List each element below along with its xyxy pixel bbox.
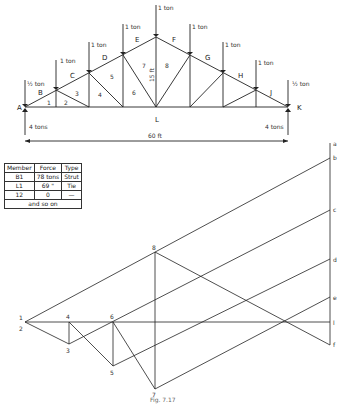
table-row: B1 78 tons Strut xyxy=(5,173,82,182)
svg-text:A: A xyxy=(17,104,22,112)
svg-text:1: 1 xyxy=(47,99,51,106)
svg-text:a: a xyxy=(333,140,337,147)
svg-text:4: 4 xyxy=(66,313,70,320)
svg-text:d: d xyxy=(333,256,337,263)
svg-text:15 ft: 15 ft xyxy=(148,67,155,82)
member-force-table: Member Force Type B1 78 tons Strut L1 69… xyxy=(4,163,82,209)
svg-text:5: 5 xyxy=(110,73,114,80)
table-row: 12 0 — xyxy=(5,191,82,200)
load-label: 1 ton xyxy=(158,4,174,11)
col-type: Type xyxy=(62,164,82,173)
svg-text:l: l xyxy=(333,319,335,326)
svg-text:D: D xyxy=(102,54,107,62)
svg-text:6: 6 xyxy=(110,313,114,320)
svg-text:3: 3 xyxy=(75,90,79,97)
load-label: 1 ton xyxy=(91,41,107,48)
svg-text:E: E xyxy=(135,36,139,44)
load-label: ½ ton xyxy=(27,80,45,87)
svg-text:2: 2 xyxy=(64,99,68,106)
svg-text:B: B xyxy=(38,89,43,97)
svg-text:J: J xyxy=(269,89,272,97)
col-member: Member xyxy=(5,164,35,173)
svg-text:4: 4 xyxy=(98,91,102,98)
svg-text:6: 6 xyxy=(132,89,136,96)
svg-text:e: e xyxy=(333,294,337,301)
svg-text:1: 1 xyxy=(19,314,23,321)
load-label: 1 ton xyxy=(125,23,141,30)
figure-caption: Fig. 7.17 xyxy=(150,396,176,403)
svg-text:4 tons: 4 tons xyxy=(265,123,284,130)
svg-text:f: f xyxy=(333,341,336,348)
svg-text:b: b xyxy=(333,154,337,161)
svg-text:8: 8 xyxy=(165,62,169,69)
svg-text:60 ft: 60 ft xyxy=(148,132,163,139)
svg-text:5: 5 xyxy=(110,369,114,376)
svg-text:3: 3 xyxy=(66,347,70,354)
table-row: L1 69 " Tie xyxy=(5,182,82,191)
load-label: 1 ton xyxy=(258,59,274,66)
svg-text:F: F xyxy=(172,36,176,44)
table-footer-row: and so on xyxy=(5,200,82,209)
svg-text:4 tons: 4 tons xyxy=(29,123,48,130)
load-label: 1 ton xyxy=(60,57,76,64)
svg-text:8: 8 xyxy=(152,244,156,251)
col-force: Force xyxy=(34,164,62,173)
svg-text:C: C xyxy=(70,72,75,80)
svg-text:K: K xyxy=(297,104,302,112)
svg-text:L: L xyxy=(155,116,159,124)
svg-text:7: 7 xyxy=(142,62,146,69)
svg-text:G: G xyxy=(205,54,210,62)
svg-text:c: c xyxy=(333,206,336,213)
load-label: 1 ton xyxy=(225,41,241,48)
svg-text:2: 2 xyxy=(19,325,23,332)
load-label: ½ ton xyxy=(292,80,310,87)
svg-text:H: H xyxy=(238,72,243,80)
load-label: 1 ton xyxy=(192,23,208,30)
